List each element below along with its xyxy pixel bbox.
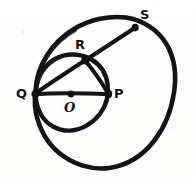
- point-label-P: P: [114, 87, 124, 100]
- point-label-Q: Q: [16, 87, 27, 100]
- point-label-O: O: [64, 101, 75, 114]
- center-point-O-dot: [68, 91, 75, 98]
- vertex-Q-blob: [31, 90, 39, 99]
- point-label-S: S: [140, 8, 149, 21]
- vertex-P-blob: [105, 90, 113, 98]
- vertex-S-blob: [132, 24, 139, 32]
- figure-canvas: [0, 0, 193, 178]
- point-label-R: R: [75, 38, 85, 51]
- geometry-figure: Q P O R S: [0, 0, 193, 178]
- vertex-R-blob: [81, 56, 89, 64]
